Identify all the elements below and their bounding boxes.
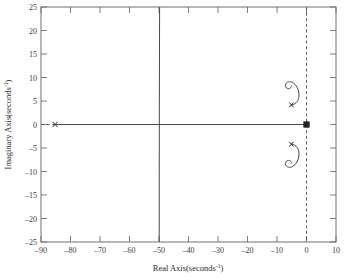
x-tick-label: 0 (305, 246, 309, 255)
origin-zero-marker (304, 122, 309, 127)
y-tick-label: 15 (29, 50, 37, 59)
y-tick-label: –10 (24, 168, 37, 177)
y-axis-title-main: Imaginary Axis(seconds (3, 87, 13, 169)
x-tick-label: –70 (93, 246, 106, 255)
x-tick-label: –50 (152, 246, 165, 255)
x-tick-label: –30 (211, 246, 224, 255)
x-tick-label: –40 (182, 246, 195, 255)
x-tick-label: –20 (241, 246, 254, 255)
x-axis-title: Real Axis(seconds-1) (153, 263, 224, 273)
y-tick-label: –20 (24, 215, 37, 224)
y-tick-label: 10 (29, 74, 37, 83)
y-axis-title-tail: ) (3, 79, 13, 82)
x-tick-label: –80 (64, 246, 77, 255)
x-tick-label: 10 (332, 246, 340, 255)
y-tick-label: 5 (33, 97, 37, 106)
x-axis-title-tail: ) (220, 263, 223, 273)
y-tick-labels: 25 20 15 10 5 0 –5 –10 –15 –20 –25 (24, 3, 37, 247)
x-tick-label: –90 (34, 246, 47, 255)
x-tick-label: –60 (123, 246, 136, 255)
x-tick-label: –10 (270, 246, 283, 255)
x-axis-title-main: Real Axis(seconds (153, 263, 216, 273)
y-tick-label: –15 (24, 191, 37, 200)
root-locus-figure: –90 –80 –70 –60 –50 –40 –30 –20 –10 0 10… (0, 0, 345, 280)
y-tick-label: –5 (28, 144, 37, 153)
y-tick-label: 20 (29, 27, 37, 36)
root-locus-chart: –90 –80 –70 –60 –50 –40 –30 –20 –10 0 10… (0, 0, 345, 280)
y-tick-label: 0 (33, 121, 37, 130)
y-axis-title: Imaginary Axis(seconds-1) (3, 79, 13, 169)
x-tick-labels: –90 –80 –70 –60 –50 –40 –30 –20 –10 0 10 (34, 246, 340, 255)
y-tick-label: 25 (29, 3, 37, 12)
y-tick-label: –25 (24, 238, 37, 247)
